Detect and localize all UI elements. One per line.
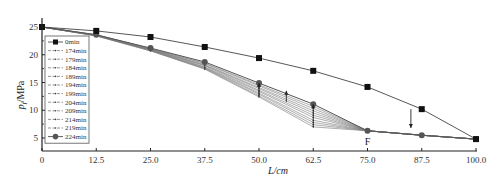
legend-dot-icon: [55, 67, 57, 69]
legend-dot-icon: [55, 93, 57, 95]
y-tick-label: 5: [34, 133, 39, 143]
y-tick-label: 25: [29, 22, 39, 32]
legend-circle-icon: [53, 134, 59, 140]
legend-label: 0min: [65, 38, 80, 46]
legend-dot-icon: [55, 50, 57, 52]
legend-dot-icon: [55, 110, 57, 112]
point-f-label: F: [365, 136, 371, 147]
legend-dot-icon: [55, 127, 57, 129]
y-tick-label: 10: [29, 105, 39, 115]
square-marker: [310, 68, 316, 74]
circle-marker: [365, 128, 371, 134]
arrow-head-icon: [409, 124, 413, 128]
x-tick-label: 75.0: [360, 155, 376, 165]
legend-dot-icon: [55, 119, 57, 121]
y-axis-title: pf/MPa: [15, 80, 28, 110]
x-tick-label: 50.0: [251, 155, 267, 165]
x-tick-label: 37.5: [197, 155, 213, 165]
square-marker: [256, 55, 262, 61]
legend-label: 209min: [65, 107, 87, 115]
legend-label: 204min: [65, 99, 87, 107]
square-marker: [473, 136, 479, 142]
square-marker: [148, 34, 154, 40]
x-tick-label: 87.5: [414, 155, 430, 165]
legend-label: 184min: [65, 64, 87, 72]
x-tick-label: 0: [40, 155, 45, 165]
square-marker: [93, 28, 99, 34]
legend-label: 189min: [65, 73, 87, 81]
square-marker: [202, 44, 208, 50]
legend-label: 214min: [65, 116, 87, 124]
legend-label: 199min: [65, 90, 87, 98]
legend-label: 194min: [65, 81, 87, 89]
x-tick-label: 100.0: [466, 155, 487, 165]
legend-dot-icon: [55, 58, 57, 60]
legend-label: 174min: [65, 47, 87, 55]
circle-marker: [148, 45, 154, 51]
x-tick-label: 12.5: [88, 155, 104, 165]
legend-label: 224min: [65, 133, 87, 141]
y-tick-label: 20: [29, 50, 39, 60]
legend-dot-icon: [55, 76, 57, 78]
legend-dot-icon: [55, 101, 57, 103]
pressure-profile-chart: 012.525.037.550.062.575.087.5100.0510152…: [0, 0, 496, 190]
x-axis-title: L/cm: [267, 165, 288, 176]
x-tick-label: 25.0: [143, 155, 159, 165]
x-tick-label: 62.5: [305, 155, 321, 165]
legend: 0min174min179min184min189min194min199min…: [45, 36, 89, 143]
y-tick-label: 15: [29, 78, 39, 88]
legend-dot-icon: [55, 84, 57, 86]
square-marker: [365, 84, 371, 90]
axes: 012.525.037.550.062.575.087.5100.0510152…: [29, 18, 487, 165]
circle-marker: [202, 59, 208, 65]
legend-label: 219min: [65, 124, 87, 132]
legend-label: 179min: [65, 56, 87, 64]
legend-square-icon: [53, 40, 58, 45]
circle-marker: [419, 132, 425, 138]
square-marker: [419, 106, 425, 112]
